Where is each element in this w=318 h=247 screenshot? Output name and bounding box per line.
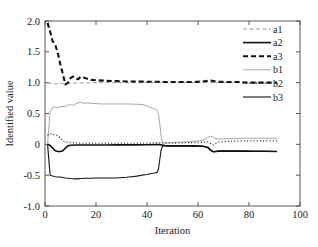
chart-legend: a1a2a3b1b2b3 bbox=[243, 24, 283, 103]
x-tick-label-4: 80 bbox=[244, 209, 255, 220]
y-tick-label-2: 0 bbox=[35, 139, 40, 150]
legend-label-a3: a3 bbox=[273, 51, 282, 62]
series-line-b3 bbox=[48, 144, 277, 179]
legend-label-b2: b2 bbox=[273, 78, 283, 89]
legend-label-a2: a2 bbox=[273, 37, 282, 48]
y-tick-label-5: 1.5 bbox=[27, 46, 40, 57]
x-tick-label-3: 60 bbox=[193, 209, 204, 220]
axis-labels: 020406080100-1.0-0.500.51.01.52.0Iterati… bbox=[4, 16, 308, 236]
series-line-b2 bbox=[48, 134, 277, 145]
series-line-a3 bbox=[48, 23, 277, 85]
x-tick-label-5: 100 bbox=[292, 209, 308, 220]
chart-container: 020406080100-1.0-0.500.51.01.52.0Iterati… bbox=[0, 0, 318, 247]
y-tick-label-4: 1.0 bbox=[27, 77, 40, 88]
y-tick-label-1: -0.5 bbox=[23, 170, 40, 181]
y-tick-label-6: 2.0 bbox=[27, 16, 40, 27]
y-axis-title: Identified value bbox=[4, 80, 15, 147]
x-axis-title: Iteration bbox=[155, 225, 191, 236]
legend-label-a1: a1 bbox=[273, 24, 282, 35]
legend-label-b1: b1 bbox=[273, 64, 283, 75]
series-line-b1 bbox=[48, 102, 277, 144]
y-tick-label-0: -1.0 bbox=[23, 201, 40, 212]
plot-series bbox=[48, 23, 277, 179]
x-tick-label-2: 40 bbox=[142, 209, 153, 220]
x-tick-label-0: 0 bbox=[42, 209, 47, 220]
x-tick-label-1: 20 bbox=[91, 209, 102, 220]
legend-label-b3: b3 bbox=[273, 92, 283, 103]
line-chart: 020406080100-1.0-0.500.51.01.52.0Iterati… bbox=[0, 0, 318, 247]
y-tick-label-3: 0.5 bbox=[27, 108, 40, 119]
